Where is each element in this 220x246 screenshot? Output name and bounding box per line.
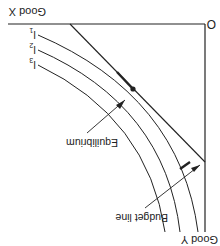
x-axis-label: Good X xyxy=(8,6,46,18)
curve-tangent-emphasis xyxy=(180,162,190,169)
curve-label-3: I3 xyxy=(29,57,36,70)
curve-label-1: I1 xyxy=(29,27,36,40)
budget-line-label: Budget line xyxy=(115,212,168,224)
curve-label-2: I2 xyxy=(29,42,36,55)
y-axis-label: Good Y xyxy=(180,234,218,246)
equilibrium-label: Equilibrium xyxy=(66,137,118,149)
budget-line-emphasis xyxy=(117,72,133,89)
indifference-curve-diagram: O Good X Good Y I1 I2 I3 Equilibrium Bud… xyxy=(0,0,220,246)
origin-label: O xyxy=(207,17,216,31)
indifference-curve-1 xyxy=(38,35,198,232)
